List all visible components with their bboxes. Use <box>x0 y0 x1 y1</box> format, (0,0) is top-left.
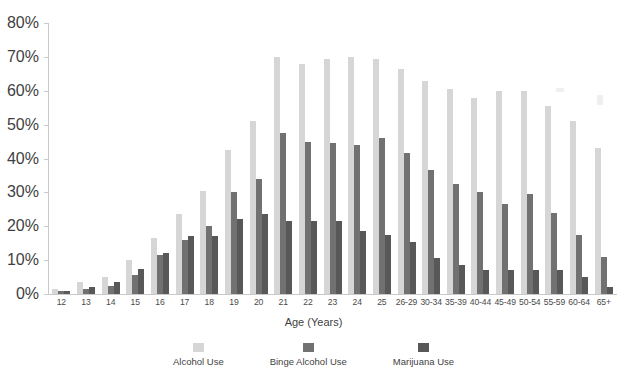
bar <box>557 270 563 294</box>
y-axis-tick-mark <box>44 294 48 295</box>
legend-label: Marijuana Use <box>393 356 454 367</box>
bar-group <box>197 23 222 294</box>
legend-swatch <box>303 343 314 352</box>
x-axis-tick-label: 17 <box>172 297 197 313</box>
bar-group <box>296 23 321 294</box>
y-axis-tick-mark <box>44 91 48 92</box>
bar <box>286 221 292 294</box>
y-axis-tick-mark <box>44 57 48 58</box>
scan-artifact <box>556 88 564 92</box>
bar <box>385 235 391 294</box>
chart-legend: Alcohol UseBinge Alcohol UseMarijuana Us… <box>0 343 627 367</box>
legend-swatch <box>418 343 429 352</box>
bar <box>582 277 588 294</box>
x-axis-tick-label: 40-44 <box>468 297 493 313</box>
cropped-title-strip <box>0 0 627 10</box>
bar-group <box>148 23 173 294</box>
bar-group <box>345 23 370 294</box>
legend-swatch <box>193 343 204 352</box>
bar-group <box>222 23 247 294</box>
bar-group <box>419 23 444 294</box>
bar-group <box>591 23 616 294</box>
y-axis-tick-mark <box>44 226 48 227</box>
bar <box>360 231 366 294</box>
bar-group <box>172 23 197 294</box>
bar <box>64 291 70 294</box>
bar <box>89 287 95 294</box>
bar-group <box>246 23 271 294</box>
x-axis-tick-label: 13 <box>74 297 99 313</box>
x-axis-tick-label: 20 <box>246 297 271 313</box>
bar <box>262 214 268 294</box>
bar <box>163 253 169 294</box>
bar-group <box>271 23 296 294</box>
bar <box>607 287 613 294</box>
bar <box>114 282 120 294</box>
y-axis-tick-label: 20% <box>7 217 39 235</box>
x-axis-tick-label: 15 <box>123 297 148 313</box>
bar <box>459 265 465 294</box>
x-axis-tick-label: 35-39 <box>444 297 469 313</box>
bar <box>434 258 440 294</box>
bar-group <box>517 23 542 294</box>
bar <box>336 221 342 294</box>
bar-group <box>49 23 74 294</box>
bar <box>311 221 317 294</box>
bar <box>483 270 489 294</box>
y-axis-tick-mark <box>44 23 48 24</box>
bar-group <box>542 23 567 294</box>
x-axis-tick-labels: 121314151617181920212223242526-2930-3435… <box>49 297 616 313</box>
y-axis-tick-label: 80% <box>7 14 39 32</box>
bar <box>138 269 144 294</box>
bar <box>533 270 539 294</box>
bar-group <box>444 23 469 294</box>
y-axis-tick-label: 30% <box>7 183 39 201</box>
x-axis-tick-label: 45-49 <box>493 297 518 313</box>
x-axis-tick-label: 24 <box>345 297 370 313</box>
x-axis-tick-label: 16 <box>148 297 173 313</box>
bar-group <box>98 23 123 294</box>
y-axis-tick-label: 0% <box>16 285 39 303</box>
bar <box>188 236 194 294</box>
y-axis-tick-label: 60% <box>7 82 39 100</box>
x-axis-tick-label: 26-29 <box>394 297 419 313</box>
x-axis-tick-label: 14 <box>98 297 123 313</box>
bar-group <box>74 23 99 294</box>
bar-group <box>567 23 592 294</box>
bar-group <box>370 23 395 294</box>
y-axis-tick-mark <box>44 159 48 160</box>
x-axis-title: Age (Years) <box>0 316 627 328</box>
x-axis-tick-label: 22 <box>296 297 321 313</box>
x-axis-tick-label: 55-59 <box>542 297 567 313</box>
legend-label: Alcohol Use <box>173 356 224 367</box>
x-axis-tick-label: 19 <box>222 297 247 313</box>
legend-item[interactable]: Marijuana Use <box>393 343 454 367</box>
x-axis-tick-label: 50-54 <box>517 297 542 313</box>
bar-chart: 0%10%20%30%40%50%60%70%80% 1213141516171… <box>0 0 627 377</box>
bar <box>410 242 416 295</box>
y-axis-tick-mark <box>44 260 48 261</box>
x-axis-tick-label: 12 <box>49 297 74 313</box>
y-axis-tick-label: 70% <box>7 48 39 66</box>
x-axis-tick-label: 25 <box>370 297 395 313</box>
x-axis-tick-label: 30-34 <box>419 297 444 313</box>
legend-item[interactable]: Alcohol Use <box>173 343 224 367</box>
x-axis-tick-label: 18 <box>197 297 222 313</box>
y-axis-tick-label: 10% <box>7 251 39 269</box>
x-axis-tick-label: 21 <box>271 297 296 313</box>
y-axis-tick-mark <box>44 125 48 126</box>
legend-label: Binge Alcohol Use <box>270 356 347 367</box>
legend-item[interactable]: Binge Alcohol Use <box>270 343 347 367</box>
scan-artifact <box>597 95 603 105</box>
y-axis-tick-mark <box>44 192 48 193</box>
bar-group <box>123 23 148 294</box>
bar <box>237 219 243 294</box>
bar <box>508 270 514 294</box>
bar-group <box>320 23 345 294</box>
bars-layer <box>49 23 616 294</box>
x-axis-tick-label: 65+ <box>591 297 616 313</box>
bar-group <box>468 23 493 294</box>
bar-group <box>394 23 419 294</box>
x-axis-line <box>48 294 617 295</box>
y-axis-tick-label: 50% <box>7 116 39 134</box>
